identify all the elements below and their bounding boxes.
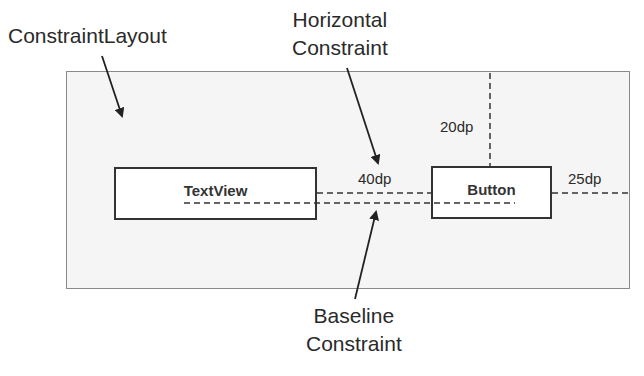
constraint-layout-arrow	[102, 56, 122, 116]
constraint-lines	[0, 0, 644, 376]
baseline-constraint-arrow	[355, 212, 376, 299]
horizontal-constraint-arrow	[347, 68, 378, 163]
